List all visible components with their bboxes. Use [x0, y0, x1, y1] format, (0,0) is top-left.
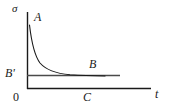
- x-axis-label: t: [155, 88, 158, 100]
- stress-relaxation-figure: σ A B B' C t 0: [0, 0, 170, 111]
- point-label-b-prime: B': [5, 67, 15, 79]
- point-label-b: B: [89, 58, 96, 70]
- point-label-a: A: [34, 11, 41, 23]
- segment-label-c: C: [83, 91, 91, 103]
- y-axis-label: σ: [12, 3, 17, 14]
- origin-label: 0: [13, 91, 19, 103]
